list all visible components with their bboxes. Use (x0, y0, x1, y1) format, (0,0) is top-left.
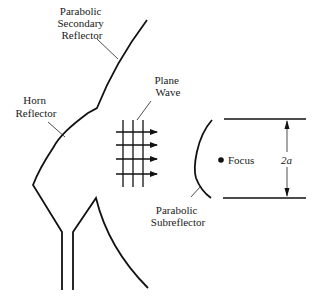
horn-reflector-leader (48, 122, 65, 137)
aperture-dimension-label: 2a (281, 154, 293, 166)
secondary-reflector-curve (33, 20, 147, 290)
horn-inner-wall (73, 198, 148, 290)
horn-reflector-label: Horn Reflector (16, 94, 57, 119)
subreflector-label: Parabolic Subreflector (151, 204, 206, 228)
secondary-reflector-label: Parabolic Secondary Reflector (57, 5, 106, 41)
secondary-reflector-leader (97, 39, 118, 59)
plane-wave-leader (137, 101, 151, 120)
plane-wave-icon (116, 120, 157, 187)
subreflector-curve (195, 120, 212, 198)
focus-dot-icon (218, 157, 224, 163)
antenna-diagram: Parabolic Secondary Reflector Horn Refle… (0, 0, 314, 299)
subreflector-leader (191, 187, 200, 197)
plane-wave-label: Plane Wave (154, 74, 181, 98)
focus-label: Focus (228, 154, 254, 166)
